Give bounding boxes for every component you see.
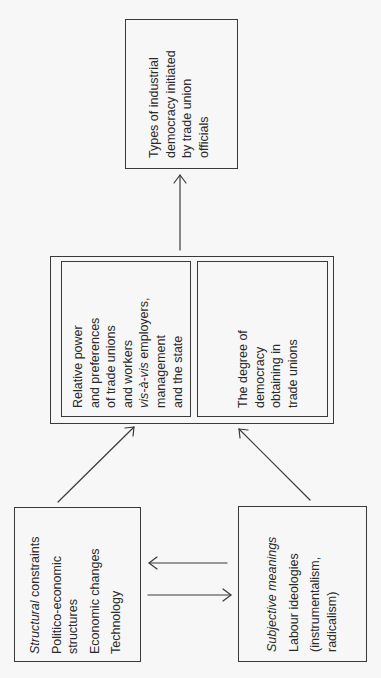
outcome-line-4: officials [196,50,213,158]
vis-a-vis-text: vis-à-vis [137,362,151,408]
power-box-text: Relative power and preferences of trade … [70,298,186,408]
structural-title-italic: Structural [28,601,42,655]
power-line-4: and workers [120,298,137,408]
power-line-6: management [153,298,170,408]
democracy-line-1: The degree of [235,330,252,408]
democracy-line-2: democracy [252,330,269,408]
structural-item-2: structures [65,537,82,654]
structural-item-3: Economic changes [87,537,104,654]
structural-item-4: Technology [108,537,125,654]
outcome-box-text: Types of industrial democracy initiated … [146,50,212,158]
structural-title-rest: constraints [28,537,42,601]
democracy-box-text: The degree of democracy obtaining in tra… [235,330,301,408]
power-line-2: and preferences [87,298,104,408]
employers-text: employers, [137,298,151,363]
democracy-line-4: trade unions [285,330,302,408]
structural-box-text: Structural constraints Politico-economic… [27,537,125,654]
structural-item-1: Politico-economic [49,537,66,654]
structural-title: Structural constraints [27,537,44,654]
outcome-line-1: Types of industrial [146,50,163,158]
outcome-line-3: by trade union [179,50,196,158]
democracy-line-3: obtaining in [268,330,285,408]
arrow-structural-to-subjective [148,589,231,601]
arrow-subjective-to-mediating [239,429,310,500]
subjective-item-2: (instrumentalism, [307,537,324,652]
arrow-structural-to-mediating [58,427,134,502]
subjective-item-1: Labour ideologies [286,537,303,652]
subjective-box-text: Subjective meanings Labour ideologies (i… [264,537,340,652]
power-line-7: and the state [170,298,187,408]
arrow-up-to-outcome [174,175,186,250]
arrow-subjective-to-structural [149,557,227,569]
power-line-5: vis-à-vis employers, [136,298,153,408]
power-line-1: Relative power [70,298,87,408]
subjective-title: Subjective meanings [264,537,281,652]
subjective-item-3: radicalism) [324,537,341,652]
outcome-line-2: democracy initiated [163,50,180,158]
power-line-3: of trade unions [103,298,120,408]
